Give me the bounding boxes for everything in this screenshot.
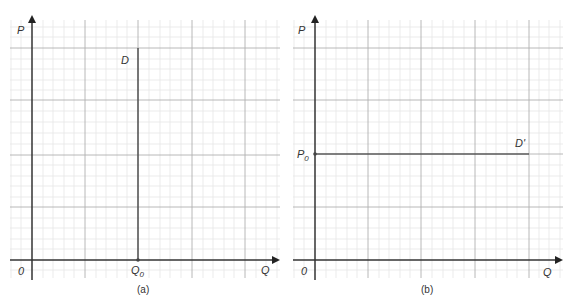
diagram-canvas	[0, 0, 572, 302]
q0-sub: 0	[140, 270, 144, 279]
panel-b-origin-label: 0	[301, 265, 307, 277]
panel-b-p0-point	[313, 152, 317, 156]
panel-a-q0-label: Q0	[131, 264, 144, 279]
panel-a-grid	[10, 20, 280, 278]
panel-b-grid	[293, 20, 563, 278]
panel-a-caption: (a)	[137, 284, 149, 295]
panel-b-caption: (b)	[421, 284, 433, 295]
panel-a-curve-label: D	[121, 54, 129, 66]
panel-a-x-axis-label: Q	[261, 264, 270, 276]
panel-a-y-axis-label: P	[17, 24, 24, 36]
p0-sub: 0	[304, 154, 308, 163]
panel-b-p0-label: P0	[297, 148, 309, 163]
panel-b-curve-label: D'	[515, 137, 525, 149]
panel-a-origin-label: 0	[18, 265, 24, 277]
panel-b-x-axis-label: Q	[543, 266, 552, 278]
panel-a-q0-point	[136, 258, 140, 262]
panel-b-y-axis-label: P	[298, 24, 305, 36]
q0-main: Q	[131, 264, 140, 276]
